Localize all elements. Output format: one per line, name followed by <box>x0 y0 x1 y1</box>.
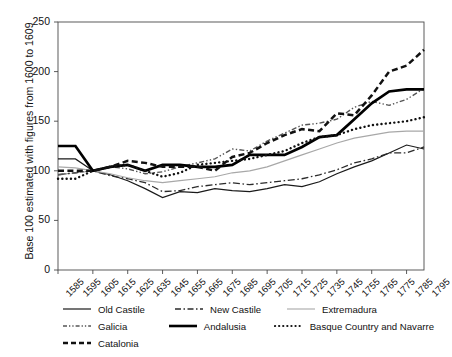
legend-swatch-galicia <box>62 321 92 331</box>
legend-label-extremadura: Extremadura <box>322 304 377 315</box>
series-lines <box>58 50 424 198</box>
legend-swatch-catalonia <box>62 338 92 348</box>
legend-swatch-basque-country-and-navarre <box>274 321 304 331</box>
legend-row: Galicia Andalusia Basque Country and Nav… <box>62 320 434 332</box>
legend-label-catalonia: Catalonia <box>98 338 139 349</box>
axes-frame <box>54 22 424 274</box>
legend-item-galicia[interactable]: Galicia <box>62 321 168 332</box>
chart-legend: Old Castile New Castile Extremadura Gali… <box>62 303 434 354</box>
legend-item-andalusia[interactable]: Andalusia <box>168 321 274 332</box>
series-line-basque-country-and-navarre <box>58 117 424 179</box>
legend-swatch-new-castile <box>174 304 204 314</box>
legend-row: Old Castile New Castile Extremadura <box>62 303 434 315</box>
legend-swatch-extremadura <box>286 304 316 314</box>
legend-item-basque-country-and-navarre[interactable]: Basque Country and Navarre <box>274 321 434 332</box>
legend-row: Catalonia <box>62 337 434 349</box>
legend-item-catalonia[interactable]: Catalonia <box>62 338 174 349</box>
legend-swatch-old-castile <box>62 304 92 314</box>
legend-item-extremadura[interactable]: Extremadura <box>286 304 377 315</box>
series-line-extremadura <box>58 131 424 183</box>
legend-item-new-castile[interactable]: New Castile <box>174 304 286 315</box>
legend-label-new-castile: New Castile <box>210 304 261 315</box>
legend-swatch-andalusia <box>168 321 198 331</box>
series-line-catalonia <box>58 50 424 171</box>
legend-label-galicia: Galicia <box>98 321 127 332</box>
legend-label-basque-country-and-navarre: Basque Country and Navarre <box>310 321 434 332</box>
legend-label-andalusia: Andalusia <box>204 321 246 332</box>
legend-label-old-castile: Old Castile <box>98 304 145 315</box>
legend-item-old-castile[interactable]: Old Castile <box>62 304 174 315</box>
